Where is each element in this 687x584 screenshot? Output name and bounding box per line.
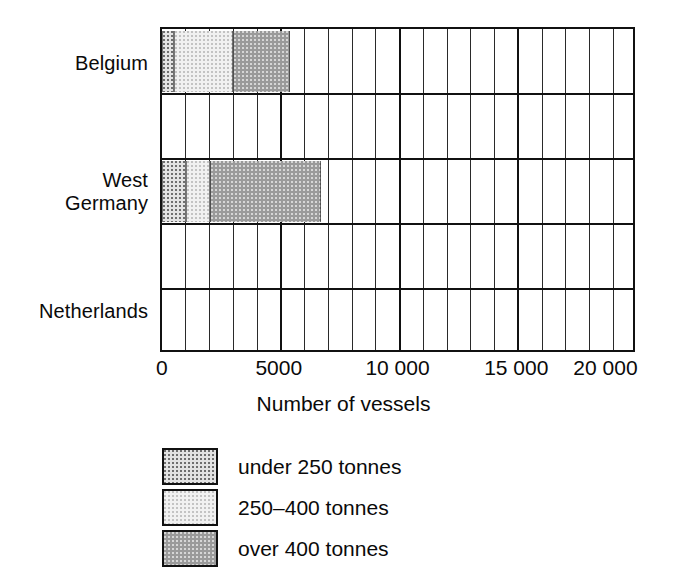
legend-item-250-400: 250–400 tonnes	[162, 487, 401, 528]
x-tick-label: 5000	[255, 356, 302, 380]
x-tick-label: 10 000	[365, 356, 429, 380]
bar-west-germany	[162, 161, 633, 222]
row-divider	[162, 158, 633, 160]
chart-legend: under 250 tonnes 250–400 tonnes over 400…	[162, 446, 401, 569]
bar-segment	[210, 161, 322, 222]
legend-item-over-400: over 400 tonnes	[162, 528, 401, 569]
legend-swatch-250-400	[162, 489, 218, 526]
legend-label-250-400: 250–400 tonnes	[238, 496, 389, 520]
legend-swatch-over-400	[162, 530, 218, 567]
category-label-west-germany: West Germany	[0, 169, 148, 215]
bar-segment	[162, 161, 186, 222]
category-label-netherlands: Netherlands	[0, 300, 148, 323]
legend-label-over-400: over 400 tonnes	[238, 537, 389, 561]
legend-label-under-250: under 250 tonnes	[238, 455, 401, 479]
plot-area	[160, 27, 635, 352]
chart-figure: Belgium West Germany Netherlands 0500010…	[0, 0, 687, 584]
x-tick-label: 20 000	[573, 356, 637, 380]
bar-segment	[233, 31, 290, 92]
x-tick-label: 15 000	[484, 356, 548, 380]
legend-swatch-under-250	[162, 448, 218, 485]
bar-segment	[186, 161, 210, 222]
row-divider	[162, 223, 633, 225]
row-divider	[162, 93, 633, 95]
category-label-belgium: Belgium	[0, 52, 148, 75]
x-axis-title: Number of vessels	[0, 392, 687, 416]
legend-item-under-250: under 250 tonnes	[162, 446, 401, 487]
x-tick-label: 0	[156, 356, 168, 380]
row-divider	[162, 288, 633, 290]
bar-segment	[162, 31, 174, 92]
bar-segment	[174, 31, 233, 92]
bar-belgium	[162, 31, 633, 92]
